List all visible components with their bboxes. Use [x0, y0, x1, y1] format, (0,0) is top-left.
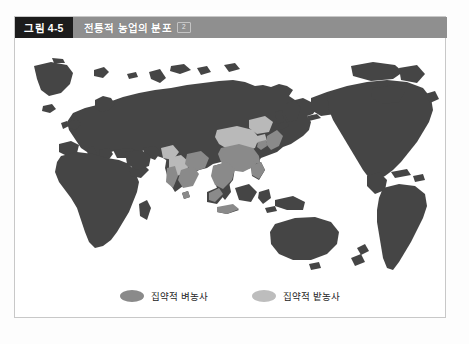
world-map: [21, 52, 445, 277]
borneo-island: [235, 184, 257, 202]
legend-item-rice: 집약적 벼농사: [120, 289, 208, 303]
arctic-island-a: [127, 72, 138, 79]
new-zealand-south: [351, 254, 365, 266]
madagascar-island: [139, 200, 151, 220]
map-area: 집약적 벼농사 집약적 밭농사: [15, 38, 445, 317]
legend-label-rice: 집약적 벼농사: [151, 289, 208, 303]
legend-label-dry-field: 집약적 밭농사: [283, 289, 340, 303]
new-guinea-island: [275, 196, 305, 210]
sri-lanka-rice-region: [182, 191, 190, 199]
new-zealand-north: [357, 244, 369, 255]
baffin-island: [399, 65, 425, 83]
sulawesi-island: [258, 189, 271, 204]
figure-title-group: 전통적 농업의 분포 2: [73, 17, 447, 38]
severnaya-zemlya: [197, 66, 211, 75]
africa-landmass: [55, 152, 139, 248]
svalbard-landmass: [94, 67, 109, 78]
java-rice-region: [217, 204, 239, 214]
map-legend: 집약적 벼농사 집약적 밭농사: [15, 289, 445, 303]
new-siberian-islands: [224, 63, 240, 72]
greenland-landmass: [34, 62, 73, 96]
figure-title: 전통적 농업의 분포: [84, 20, 172, 35]
figure-title-badge: 2: [177, 22, 191, 33]
rice-swatch-icon: [120, 290, 144, 302]
greenland-north-tip: [52, 58, 65, 63]
novaya-zemlya: [149, 69, 166, 83]
tasmania-island: [309, 262, 321, 270]
dry-field-swatch-icon: [252, 290, 276, 302]
figure-number-label: 그림 4-5: [15, 17, 73, 38]
legend-item-dry-field: 집약적 밭농사: [252, 289, 340, 303]
arctic-island-b: [170, 64, 191, 74]
iceland-landmass: [42, 104, 56, 113]
figure-header-bar: 그림 4-5 전통적 농업의 분포 2: [15, 17, 447, 38]
canadian-arctic-archipelago: [351, 62, 403, 81]
figure-page: 그림 4-5 전통적 농업의 분포 2: [0, 0, 469, 344]
timor-island: [265, 206, 277, 213]
south-america-landmass: [377, 184, 427, 270]
australia-landmass: [270, 217, 339, 260]
indochina-rice-region: [211, 162, 235, 189]
figure-panel: 그림 4-5 전통적 농업의 분포 2: [14, 16, 446, 318]
hispaniola-island: [413, 174, 425, 182]
cuba-island: [391, 169, 411, 178]
